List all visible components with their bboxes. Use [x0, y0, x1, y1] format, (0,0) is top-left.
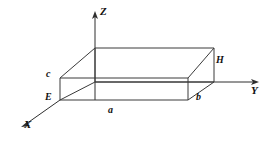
axis-label-y: Y — [251, 85, 258, 96]
dimension-label-b: b — [196, 92, 201, 102]
box-edge-depth-top-left — [60, 48, 95, 78]
dimension-label-a: a — [108, 105, 113, 115]
figure-container: Z Y X a b c E H — [0, 0, 271, 141]
vertex-label-h: H — [216, 55, 224, 65]
box-edge-depth-bottom-right — [188, 82, 214, 100]
box-diagram-svg — [0, 0, 271, 141]
axis-label-x: X — [24, 119, 31, 130]
box-edge-depth-top-right — [188, 48, 214, 78]
box-edge-depth-bottom-left — [60, 82, 95, 100]
axis-label-z: Z — [100, 6, 107, 17]
box-edges-group — [60, 48, 214, 100]
axes-group — [21, 11, 259, 127]
vertex-label-e: E — [45, 92, 52, 102]
dimension-label-c: c — [46, 69, 50, 79]
